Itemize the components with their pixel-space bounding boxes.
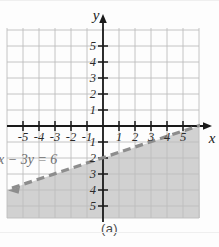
graph-svg: -5 -4 -3 -2 -1 1 2 3 4 5 5 4 3 2 1 1 [0,0,219,222]
figure-container: -5 -4 -3 -2 -1 1 2 3 4 5 5 4 3 2 1 1 [0,0,219,247]
y-tick-label: 5 [90,199,96,213]
x-axis-arrowhead [203,122,212,130]
x-tick-label: 4 [164,130,170,144]
y-tick-label: 3 [89,167,96,181]
x-tick-label: 3 [147,130,154,144]
y-axis-label: y [91,7,100,23]
x-axis-label: x [208,130,216,146]
y-tick-label: 1 [90,135,96,149]
x-tick-label: -5 [18,130,28,144]
y-tick-label: 1 [90,103,96,117]
x-tick-label: 1 [116,130,122,144]
x-tick-label: -2 [66,130,76,144]
x-tick-label: 2 [132,130,138,144]
y-tick-label: 4 [90,55,96,69]
y-tick-label: 4 [90,183,96,197]
x-tick-label: -4 [34,130,44,144]
y-axis-arrowhead [99,14,107,23]
y-tick-label: 5 [90,39,96,53]
figure-caption: (a) [0,221,219,236]
coordinate-plot: -5 -4 -3 -2 -1 1 2 3 4 5 5 4 3 2 1 1 [0,0,219,222]
y-tick-labels-negative: 1 2 3 4 5 [89,135,96,213]
scan-artifact-bottom [0,232,219,233]
y-tick-label: 2 [90,151,96,165]
y-tick-labels-positive: 5 4 3 2 1 [89,39,96,117]
x-tick-label: 5 [180,130,186,144]
y-tick-label: 3 [89,71,96,85]
x-tick-label: -3 [50,130,60,144]
equation-label: x − 3y = 6 [0,152,57,167]
y-tick-label: 2 [90,87,96,101]
